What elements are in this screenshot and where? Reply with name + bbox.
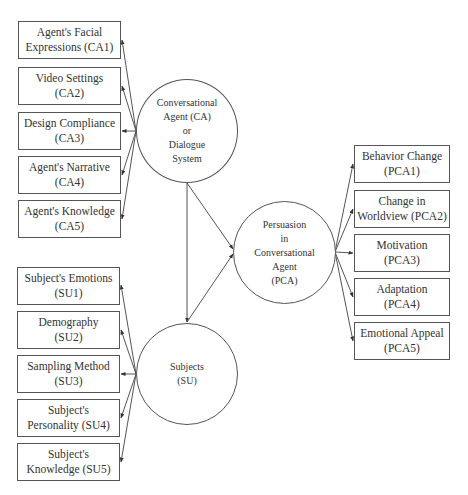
factor-box-ca1: Agent's Facial Expressions (CA1) bbox=[18, 21, 121, 59]
factor-label: Video Settings (CA2) bbox=[36, 71, 103, 101]
arrow-su-to-su4 bbox=[121, 374, 136, 418]
factor-box-su5: Subject's Knowledge (SU5) bbox=[17, 443, 120, 481]
diagram-canvas: Conversational Agent (CA) or Dialogue Sy… bbox=[0, 0, 468, 495]
factor-box-pca3: Motivation (PCA3) bbox=[354, 234, 450, 272]
factor-label: Sampling Method (SU3) bbox=[27, 359, 110, 389]
arrow-pca-to-pca2 bbox=[335, 209, 353, 252]
arrow-ca-to-ca5 bbox=[122, 131, 136, 219]
arrow-ca-to-ca2 bbox=[122, 86, 136, 131]
arrow-pca-to-pca5 bbox=[335, 252, 353, 341]
factor-label: Subject's Emotions (SU1) bbox=[24, 271, 112, 301]
factor-label: Subject's Personality (SU4) bbox=[27, 403, 110, 433]
node-label: Subjects (SU) bbox=[170, 360, 204, 388]
factor-label: Change in Worldview (PCA2) bbox=[357, 194, 446, 224]
factor-label: Adaptation (PCA4) bbox=[376, 282, 427, 312]
factor-box-pca4: Adaptation (PCA4) bbox=[354, 278, 450, 316]
arrow-ca-to-ca4 bbox=[122, 131, 136, 175]
arrow-pca-to-pca1 bbox=[335, 164, 353, 252]
factor-label: Agent's Narrative (CA4) bbox=[29, 160, 110, 190]
factor-box-ca5: Agent's Knowledge (CA5) bbox=[18, 200, 121, 238]
factor-box-su1: Subject's Emotions (SU1) bbox=[17, 267, 120, 305]
node-subjects: Subjects (SU) bbox=[136, 323, 238, 425]
arrow-su-to-su2 bbox=[121, 330, 136, 374]
arrow-ca-to-ca1 bbox=[122, 40, 136, 131]
factor-box-su3: Sampling Method (SU3) bbox=[17, 355, 120, 393]
node-persuasion-in-conversational-agent: Persuasion in Conversational Agent (PCA) bbox=[233, 201, 336, 304]
factor-box-su4: Subject's Personality (SU4) bbox=[17, 399, 120, 437]
arrow-ca-to-pca bbox=[187, 183, 233, 249]
factor-box-su2: Demography (SU2) bbox=[17, 311, 120, 349]
factor-label: Agent's Facial Expressions (CA1) bbox=[26, 25, 114, 55]
factor-label: Subject's Knowledge (SU5) bbox=[27, 447, 111, 477]
arrow-su-to-su1 bbox=[121, 285, 136, 374]
factor-label: Emotional Appeal (PCA5) bbox=[360, 326, 443, 356]
factor-box-ca4: Agent's Narrative (CA4) bbox=[18, 156, 121, 194]
factor-box-pca5: Emotional Appeal (PCA5) bbox=[354, 322, 450, 360]
factor-box-ca3: Design Compliance (CA3) bbox=[18, 112, 121, 150]
factor-box-ca2: Video Settings (CA2) bbox=[18, 67, 121, 105]
node-label: Conversational Agent (CA) or Dialogue Sy… bbox=[157, 96, 218, 166]
node-label: Persuasion in Conversational Agent (PCA) bbox=[254, 218, 315, 288]
factor-label: Motivation (PCA3) bbox=[376, 238, 427, 268]
arrow-pca-to-pca3 bbox=[335, 252, 353, 253]
arrow-pca-to-pca4 bbox=[335, 252, 353, 297]
factor-label: Agent's Knowledge (CA5) bbox=[24, 204, 115, 234]
factor-box-pca1: Behavior Change (PCA1) bbox=[354, 145, 450, 183]
factor-label: Design Compliance (CA3) bbox=[24, 116, 115, 146]
arrow-su-to-pca bbox=[187, 254, 233, 322]
factor-label: Behavior Change (PCA1) bbox=[362, 149, 442, 179]
node-conversational-agent: Conversational Agent (CA) or Dialogue Sy… bbox=[136, 79, 238, 183]
factor-box-pca2: Change in Worldview (PCA2) bbox=[354, 190, 450, 228]
arrow-su-to-su5 bbox=[121, 374, 136, 462]
factor-label: Demography (SU2) bbox=[38, 315, 98, 345]
